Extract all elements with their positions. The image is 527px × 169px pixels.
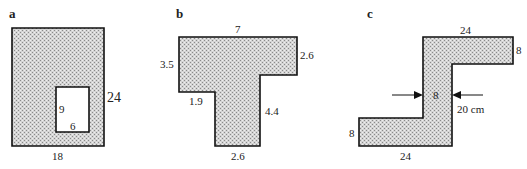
panel-a: a 24 18 9 6 xyxy=(9,6,121,162)
panel-b-shape xyxy=(179,37,297,146)
dim-outer-height: 24 xyxy=(107,90,121,105)
dim-stem-right: 4.4 xyxy=(265,105,279,117)
dim-bottom-left: 8 xyxy=(349,127,355,139)
dim-left: 3.5 xyxy=(160,58,174,70)
dim-top: 7 xyxy=(235,23,241,35)
panel-a-shape xyxy=(12,28,104,146)
dim-bottom: 2.6 xyxy=(231,150,245,162)
dim-middle-width: 8 xyxy=(433,89,439,101)
arrow-left-icon xyxy=(392,91,423,99)
dim-top: 24 xyxy=(460,24,472,36)
panel-b: b 7 2.6 3.5 1.9 4.4 2.6 xyxy=(160,6,314,162)
arrow-right-icon xyxy=(452,91,483,99)
panel-c-label: c xyxy=(367,6,373,21)
dim-hole-height: 9 xyxy=(59,103,65,115)
dim-right: 2.6 xyxy=(300,49,314,61)
dim-outer-width: 18 xyxy=(52,150,64,162)
panel-b-label: b xyxy=(176,6,183,21)
dim-bottom: 24 xyxy=(400,150,412,162)
figure-canvas: a 24 18 9 6 b 7 2.6 3.5 1.9 4.4 2.6 c 24… xyxy=(0,0,527,169)
panel-c: c 24 8 8 20 cm 8 24 xyxy=(349,6,522,162)
dim-hole-width: 6 xyxy=(70,120,76,132)
dim-middle-height: 20 cm xyxy=(457,103,485,115)
dim-top-right: 8 xyxy=(516,44,522,56)
dim-step: 1.9 xyxy=(189,95,203,107)
panel-a-label: a xyxy=(9,6,16,21)
